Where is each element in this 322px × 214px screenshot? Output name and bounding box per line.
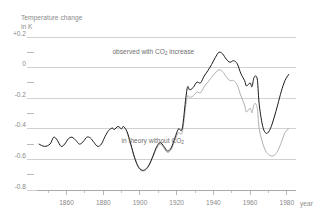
series-line-theory — [127, 70, 289, 171]
x-tick-label-1960: 1960 — [243, 199, 258, 206]
data-series-group — [39, 52, 289, 171]
x-tick-label-1860: 1860 — [59, 199, 74, 206]
chart-figure: +0.20-0.2-0.4-0.6-0.8 186018801900192019… — [0, 0, 322, 214]
y-tick-label--0.6: -0.6 — [15, 152, 27, 159]
gridlines — [27, 37, 296, 190]
y-axis-title-line1: Temperature change — [21, 14, 83, 22]
annotation-observed: observed with CO2 increase — [112, 48, 194, 57]
temperature-change-line-chart: +0.20-0.2-0.4-0.6-0.8 186018801900192019… — [0, 0, 322, 214]
y-axis-tick-labels: +0.20-0.2-0.4-0.6-0.8 — [13, 30, 26, 190]
y-tick-label--0.4: -0.4 — [15, 121, 27, 128]
x-axis — [37, 190, 296, 195]
x-tick-label-1900: 1900 — [133, 199, 148, 206]
annotation-text: in theory without CO — [122, 137, 182, 145]
x-tick-label-1920: 1920 — [169, 199, 184, 206]
x-tick-label-1880: 1880 — [96, 199, 111, 206]
y-minor-ticks — [27, 52, 34, 174]
y-tick-label--0.2: -0.2 — [15, 91, 27, 98]
x-tick-label-1940: 1940 — [206, 199, 221, 206]
y-tick-label-+0.2: +0.2 — [13, 30, 26, 37]
x-axis-title: year — [300, 200, 314, 208]
annotation-tail: increase — [168, 48, 195, 55]
y-tick-label-0: 0 — [22, 60, 26, 67]
x-axis-tick-labels: 1860188019001920194019601980 — [59, 199, 294, 206]
y-tick-label--0.8: -0.8 — [15, 183, 27, 190]
annotation-subscript: 2 — [181, 140, 184, 145]
annotation-text: observed with CO — [112, 48, 164, 55]
x-tick-label-1980: 1980 — [279, 199, 294, 206]
y-axis-title-line2: in K — [21, 23, 33, 30]
